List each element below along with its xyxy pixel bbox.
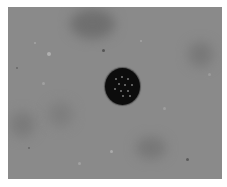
debris-speck [47, 52, 51, 56]
granule [122, 95, 124, 97]
shadow-blotch [188, 42, 213, 67]
granule [114, 88, 116, 90]
debris-speck [78, 162, 81, 165]
debris-speck [28, 147, 30, 149]
debris-speck [163, 107, 166, 110]
debris-speck [16, 67, 18, 69]
granule [127, 78, 129, 80]
granule [129, 95, 131, 97]
granule [131, 84, 133, 86]
granule [121, 76, 123, 78]
shadow-blotch [48, 102, 73, 127]
shadow-blotch [136, 137, 166, 159]
debris-speck [208, 73, 211, 76]
microscopy-field [8, 7, 222, 179]
debris-speck [102, 49, 105, 52]
shadow-blotch [10, 112, 35, 137]
granule [120, 90, 122, 92]
debris-speck [140, 40, 142, 42]
granule [127, 90, 129, 92]
debris-speck [186, 158, 189, 161]
dark-spherical-object [105, 68, 140, 105]
debris-speck [42, 82, 45, 85]
granule [124, 84, 126, 86]
debris-speck [34, 42, 36, 44]
granule [118, 83, 120, 85]
granule [115, 78, 117, 80]
shadow-blotch [70, 9, 115, 39]
debris-speck [110, 150, 113, 153]
